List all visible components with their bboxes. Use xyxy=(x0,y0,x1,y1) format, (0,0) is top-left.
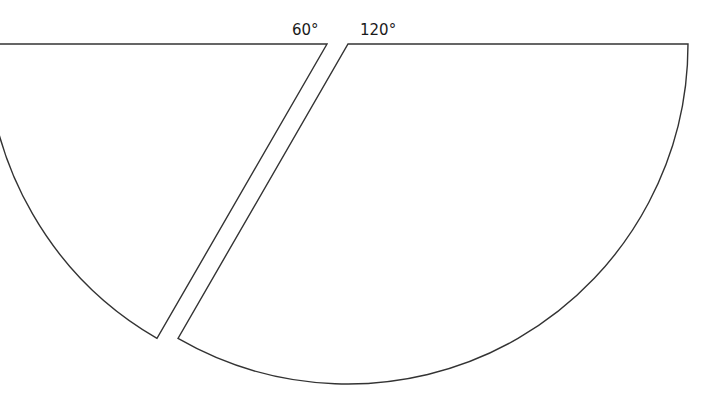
left-sector-shape xyxy=(0,44,327,338)
right-sector-angle-label: 120° xyxy=(360,23,396,38)
sector-drawing xyxy=(0,0,726,410)
right-sector-shape xyxy=(178,44,688,384)
left-sector-angle-label: 60° xyxy=(292,23,319,38)
diagram-canvas: 60° 120° xyxy=(0,0,726,410)
